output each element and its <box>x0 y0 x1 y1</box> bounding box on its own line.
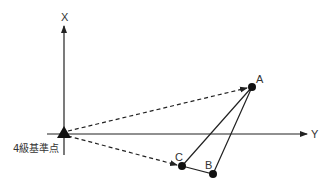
point-b <box>209 170 217 178</box>
point-c <box>178 162 186 170</box>
survey-diagram: X Y A B C 4級基準点 <box>0 0 329 189</box>
benchmark-triangle-icon <box>57 126 71 138</box>
point-a-label: A <box>256 73 264 85</box>
triangle-abc <box>182 87 252 174</box>
vector-to-c <box>68 136 177 165</box>
point-b-label: B <box>205 159 212 171</box>
y-axis-label: Y <box>311 128 319 140</box>
origin-label: 4級基準点 <box>13 142 59 154</box>
vector-to-a <box>68 88 247 131</box>
point-a <box>248 83 256 91</box>
x-axis-label: X <box>61 11 69 23</box>
point-c-label: C <box>175 151 183 163</box>
